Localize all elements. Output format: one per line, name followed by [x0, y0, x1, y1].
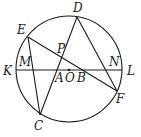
label-point-b: B [76, 71, 86, 85]
segment-cd [40, 17, 77, 115]
segment-ec [28, 37, 40, 115]
label-point-e: E [16, 23, 26, 37]
label-point-n: N [108, 55, 120, 69]
label-point-p: P [56, 42, 66, 56]
geometry-diagram: DEKLFCMPNAOB [0, 0, 141, 137]
label-point-k: K [2, 64, 13, 78]
label-point-m: M [18, 55, 32, 69]
point-labels: DEKLFCMPNAOB [2, 1, 135, 133]
label-point-c: C [34, 119, 43, 133]
label-point-d: D [72, 1, 83, 15]
label-point-f: F [115, 92, 125, 106]
label-point-l: L [126, 64, 135, 78]
label-point-a: A [54, 71, 64, 85]
label-point-o: O [65, 71, 75, 85]
